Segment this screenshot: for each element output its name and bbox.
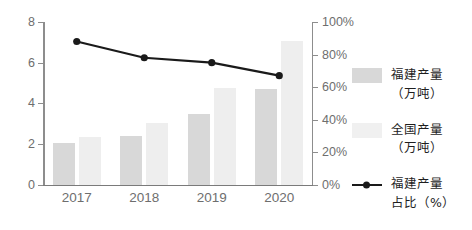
right-tick-mark	[313, 55, 318, 56]
line-point-2017	[73, 38, 80, 45]
legend-label-national-line1: 全国产量	[391, 121, 443, 140]
share-line-markers	[73, 38, 283, 79]
chart-legend: 福建产量 （万吨） 全国产量 （万吨） 福建产量 占比（%）	[352, 66, 470, 230]
legend-label-fujian-line2: （万吨）	[391, 85, 443, 104]
x-axis-labels: 2017201820192020	[43, 190, 313, 212]
right-tick-label: 0%	[322, 178, 340, 191]
left-tick-label: 8	[28, 16, 35, 29]
legend-label-fujian: 福建产量 （万吨）	[391, 66, 443, 104]
legend-label-share: 福建产量 占比（%）	[391, 175, 455, 213]
left-tick-label: 0	[28, 178, 35, 191]
x-label-2018: 2018	[129, 190, 159, 205]
share-line	[77, 42, 280, 76]
legend-label-national: 全国产量 （万吨）	[391, 121, 443, 159]
legend-item-fujian: 福建产量 （万吨）	[352, 66, 470, 104]
legend-line-marker-icon	[352, 177, 382, 192]
right-tick-mark	[313, 22, 318, 23]
line-point-2019	[208, 59, 215, 66]
right-tick-label: 80%	[322, 48, 347, 61]
legend-swatch-fujian-icon	[352, 68, 382, 83]
right-tick-mark	[313, 152, 318, 153]
legend-swatch-national-icon	[352, 123, 382, 138]
legend-label-national-line2: （万吨）	[391, 139, 443, 158]
right-tick-label: 100%	[322, 16, 354, 29]
right-tick-label: 20%	[322, 146, 347, 159]
right-tick-mark	[313, 120, 318, 121]
chart-figure: 02468 0%20%40%60%80%100% 201720182019202…	[0, 0, 472, 230]
right-tick-mark	[313, 185, 318, 186]
legend-label-share-line2: 占比（%）	[391, 194, 455, 213]
x-label-2017: 2017	[62, 190, 92, 205]
x-label-2019: 2019	[197, 190, 227, 205]
plot-area: 02468 0%20%40%60%80%100%	[43, 22, 313, 186]
right-tick-label: 40%	[322, 113, 347, 126]
legend-label-fujian-line1: 福建产量	[391, 66, 443, 85]
line-series-layer	[43, 22, 313, 186]
right-tick-label: 60%	[322, 81, 347, 94]
legend-item-national: 全国产量 （万吨）	[352, 121, 470, 159]
line-point-2018	[141, 54, 148, 61]
legend-label-share-line1: 福建产量	[391, 175, 455, 194]
left-tick-label: 6	[28, 56, 35, 69]
left-tick-label: 4	[28, 97, 35, 110]
x-label-2020: 2020	[264, 190, 294, 205]
legend-item-share: 福建产量 占比（%）	[352, 175, 470, 213]
right-tick-mark	[313, 87, 318, 88]
line-point-2020	[276, 72, 283, 79]
left-tick-label: 2	[28, 138, 35, 151]
